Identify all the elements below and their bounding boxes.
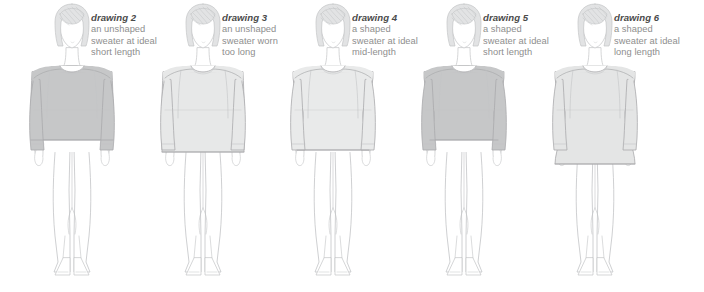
figure-drawing-4: drawing 4a shapedsweater at idealmid-len… xyxy=(269,0,400,292)
caption-line: a shaped xyxy=(614,24,676,36)
figure-drawing-6: drawing 6a shapedsweater at ideallong le… xyxy=(531,0,662,292)
caption-line: sweater at ideal xyxy=(614,36,676,48)
caption-line: long length xyxy=(614,47,676,59)
figure-drawing-2: drawing 2an unshapedsweater at idealshor… xyxy=(8,0,139,292)
figure-drawing-5: drawing 5a shapedsweater at idealshort l… xyxy=(400,0,531,292)
sweater-length-illustration-board: drawing 2an unshapedsweater at idealshor… xyxy=(0,0,704,292)
caption-title: drawing 6 xyxy=(614,12,676,24)
caption-drawing-6: drawing 6a shapedsweater at ideallong le… xyxy=(614,12,676,59)
figure-drawing-3: drawing 3an unshapedsweater worntoo long xyxy=(139,0,270,292)
